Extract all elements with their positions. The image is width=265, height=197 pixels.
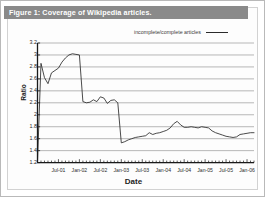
y-tick-label: 2.8 [21,64,37,69]
x-tick-label: Jan-02 [72,167,88,173]
chart-gridlines [38,43,255,163]
y-tick-label: 2.2 [21,100,37,105]
data-series-incomplete-complete-articles [38,54,255,162]
y-tick-label: 2 [21,112,37,117]
x-tick-label: Jul-04 [177,167,191,173]
y-tick-label: 1.2 [21,160,37,165]
x-tick-label: Jul-05 [219,167,233,173]
y-tick-label: 1.8 [21,124,37,129]
x-tick-label: Jul-02 [93,167,107,173]
figure-container: Figure 1: Coverage of Wikipedia articles… [0,0,265,197]
y-tick-label: 3.2 [21,40,37,45]
y-tick-label: 2.4 [21,88,37,93]
y-tick-label: 2.6 [21,76,37,81]
plot-area: Ratio Date 3.232.82.62.42.221.81.61.41.2… [1,1,265,197]
y-tick-label: 1.4 [21,148,37,153]
x-axis-title: Date [1,177,265,186]
y-tick-label: 3 [21,52,37,57]
x-axis-tick-labels: Jul-01Jan-02Jul-02Jan-03Jul-03Jan-04Jul-… [1,167,265,177]
x-tick-label: Jul-03 [135,167,149,173]
x-tick-label: Jan-06 [239,167,255,173]
x-tick-label: Jan-04 [155,167,171,173]
x-tick-label: Jul-01 [52,167,66,173]
x-tick-label: Jan-05 [197,167,213,173]
x-tick-label: Jan-03 [114,167,130,173]
y-tick-label: 1.6 [21,136,37,141]
